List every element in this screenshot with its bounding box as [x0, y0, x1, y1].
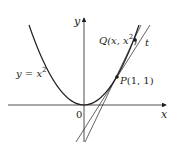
diagram-canvas: y x 0 y = x2 Q(x, x2) t P(1, 1) [0, 0, 178, 147]
origin-label: 0 [76, 109, 82, 120]
y-axis-label: y [73, 15, 81, 28]
curve-equation-label: y = x2 [15, 66, 47, 79]
point-p-label: P(1, 1) [119, 75, 154, 86]
x-axis-label: x [161, 108, 168, 121]
point-p [115, 75, 119, 79]
tangent-label: t [145, 37, 150, 48]
